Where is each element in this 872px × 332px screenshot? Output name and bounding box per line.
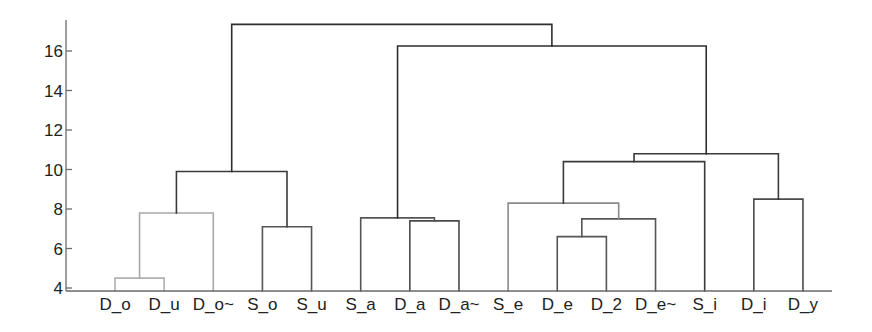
y-tick-label: 16	[44, 42, 63, 61]
dendrogram-link-c3	[262, 227, 311, 291]
dendrogram-link-c13	[398, 46, 707, 218]
axes: 46810121416	[44, 20, 832, 298]
dendrogram-link-c7	[557, 237, 606, 291]
dendrogram-link-c2	[140, 213, 214, 291]
dendrogram-link-c1	[115, 278, 164, 291]
y-tick-label: 6	[54, 240, 63, 259]
y-tick-label: 14	[44, 82, 63, 101]
y-tick-label: 8	[54, 200, 63, 219]
dendrogram-link-c11	[754, 199, 803, 291]
leaf-label: D_e~	[635, 295, 676, 314]
leaf-label: D_y	[788, 295, 819, 314]
leaf-label: S_e	[493, 295, 523, 314]
leaf-label: S_i	[692, 295, 717, 314]
dendrogram-link-c12	[634, 154, 778, 199]
y-ticks: 46810121416	[44, 42, 72, 298]
dendrogram-link-c4	[176, 171, 287, 226]
dendrogram-link-c8	[582, 219, 656, 291]
leaf-label: D_o	[99, 295, 130, 314]
leaf-label: S_u	[296, 295, 326, 314]
leaf-label: D_u	[149, 295, 180, 314]
leaf-label: S_o	[247, 295, 277, 314]
y-tick-label: 12	[44, 121, 63, 140]
dendrogram-chart: 46810121416 D_oD_uD_o~S_oS_uS_aD_aD_a~S_…	[0, 0, 872, 332]
leaf-label: D_a~	[438, 295, 479, 314]
leaf-labels: D_oD_uD_o~S_oS_uS_aD_aD_a~S_eD_eD_2D_e~S…	[99, 295, 818, 314]
leaf-label: D_2	[591, 295, 622, 314]
dendrogram-links	[115, 24, 803, 291]
leaf-label: D_i	[741, 295, 767, 314]
dendrogram-link-c9	[508, 203, 619, 291]
leaf-label: S_a	[346, 295, 377, 314]
dendrogram-link-c10	[563, 162, 704, 291]
dendrogram-link-c6	[361, 218, 435, 291]
leaf-label: D_o~	[193, 295, 234, 314]
dendrogram-link-c5	[410, 221, 459, 291]
leaf-label: D_e	[542, 295, 573, 314]
leaf-label: D_a	[394, 295, 426, 314]
y-tick-label: 10	[44, 161, 63, 180]
y-tick-label: 4	[54, 279, 63, 298]
